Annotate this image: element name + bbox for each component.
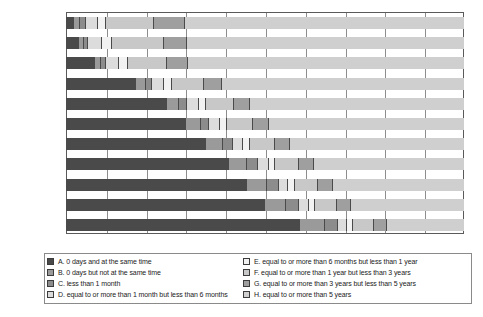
bar-segment-D — [106, 57, 119, 69]
bar-row — [66, 199, 464, 211]
bar-segment-C — [325, 219, 339, 231]
bar-segment-F — [106, 17, 154, 29]
legend-item-A[interactable]: A. 0 days and at the same time — [47, 256, 228, 267]
bar-segment-G — [204, 78, 222, 90]
bar-segment-E — [269, 158, 276, 170]
legend-item-H[interactable]: H. equal to or more than 5 years — [243, 289, 417, 300]
bar-segment-B — [300, 219, 324, 231]
bars-container — [66, 12, 464, 234]
bar-segment-A — [66, 138, 206, 150]
bar-segment-H — [269, 118, 464, 130]
bar-segment-F — [315, 199, 337, 211]
legend-label: A. 0 days and at the same time — [58, 258, 152, 265]
bar-segment-G — [164, 37, 188, 49]
bar-segment-D — [152, 78, 164, 90]
bar-segment-C — [201, 118, 210, 130]
bar-segment-A — [66, 57, 95, 69]
bar-segment-F — [206, 98, 234, 110]
legend-column-right: E. equal to or more than 6 months but le… — [243, 256, 417, 300]
bar-row — [66, 138, 464, 150]
chart-legend: A. 0 days and at the same timeB. 0 days … — [44, 253, 472, 304]
bar-segment-B — [229, 158, 247, 170]
bar-segment-D — [338, 219, 347, 231]
bar-segment-E — [102, 37, 112, 49]
bar-segment-A — [66, 37, 79, 49]
bar-segment-C — [247, 158, 258, 170]
bar-segment-A — [66, 78, 136, 90]
bar-row — [66, 179, 464, 191]
bar-segment-A — [66, 219, 300, 231]
y-axis-labels — [0, 12, 64, 234]
legend-swatch-icon-E — [243, 258, 250, 265]
bar-segment-H — [222, 78, 464, 90]
bar-segment-G — [253, 118, 269, 130]
bar-segment-H — [187, 37, 464, 49]
bar-segment-A — [66, 17, 74, 29]
bar-segment-B — [186, 118, 201, 130]
bar-segment-G — [275, 138, 290, 150]
bar-segment-E — [220, 118, 227, 130]
bar-row — [66, 98, 464, 110]
legend-label: H. equal to or more than 5 years — [254, 291, 351, 298]
bar-segment-G — [167, 57, 188, 69]
legend-item-G[interactable]: G. equal to or more than 3 years but les… — [243, 278, 417, 289]
bar-segment-G — [234, 98, 250, 110]
legend-swatch-icon-A — [47, 258, 54, 265]
bar-row — [66, 37, 464, 49]
bar-segment-H — [333, 179, 464, 191]
bar-segment-C — [223, 138, 233, 150]
bar-segment-H — [250, 98, 464, 110]
bar-segment-D — [209, 118, 220, 130]
bar-segment-G — [299, 158, 314, 170]
bar-segment-A — [66, 98, 167, 110]
bar-segment-A — [66, 199, 265, 211]
legend-swatch-icon-B — [47, 269, 54, 276]
legend-swatch-icon-H — [243, 291, 250, 298]
legend-item-E[interactable]: E. equal to or more than 6 months but le… — [243, 256, 417, 267]
bar-segment-C — [267, 179, 279, 191]
legend-label: E. equal to or more than 6 months but le… — [254, 258, 417, 265]
legend-swatch-icon-G — [243, 280, 250, 287]
bar-segment-H — [185, 17, 464, 29]
bar-row — [66, 118, 464, 130]
bar-row — [66, 158, 464, 170]
legend-item-F[interactable]: F. equal to or more than 1 year but less… — [243, 267, 417, 278]
x-axis-ticks — [66, 234, 464, 248]
bar-segment-D — [279, 179, 289, 191]
legend-item-B[interactable]: B. 0 days but not at the same time — [47, 267, 228, 278]
bar-segment-G — [318, 179, 332, 191]
bar-segment-F — [275, 158, 299, 170]
bar-segment-A — [66, 179, 247, 191]
bar-segment-C — [146, 78, 153, 90]
legend-item-C[interactable]: C. less than 1 month — [47, 278, 228, 289]
bar-segment-G — [374, 219, 387, 231]
bar-segment-H — [351, 199, 464, 211]
bar-segment-H — [314, 158, 464, 170]
bar-segment-G — [154, 17, 186, 29]
bar-segment-B — [167, 98, 180, 110]
chart-page: A. 0 days and at the same timeB. 0 days … — [0, 0, 483, 317]
bar-segment-G — [337, 199, 351, 211]
bar-segment-D — [258, 158, 268, 170]
bar-row — [66, 17, 464, 29]
bar-segment-D — [88, 37, 102, 49]
bar-segment-E — [199, 98, 207, 110]
bar-segment-F — [295, 179, 318, 191]
bar-segment-B — [136, 78, 145, 90]
legend-swatch-icon-C — [47, 280, 54, 287]
legend-label: C. less than 1 month — [58, 280, 120, 287]
bar-segment-F — [172, 78, 204, 90]
legend-label: B. 0 days but not at the same time — [58, 269, 161, 276]
legend-item-D[interactable]: D. equal to or more than 1 month but les… — [47, 289, 228, 300]
bar-segment-A — [66, 158, 229, 170]
bar-segment-F — [250, 138, 275, 150]
bar-segment-F — [227, 118, 253, 130]
bar-segment-D — [233, 138, 243, 150]
bar-row — [66, 78, 464, 90]
bar-segment-E — [288, 179, 295, 191]
bar-segment-E — [98, 17, 106, 29]
bar-segment-B — [206, 138, 223, 150]
bar-segment-E — [119, 57, 128, 69]
bar-segment-H — [188, 57, 464, 69]
bar-segment-C — [179, 98, 187, 110]
